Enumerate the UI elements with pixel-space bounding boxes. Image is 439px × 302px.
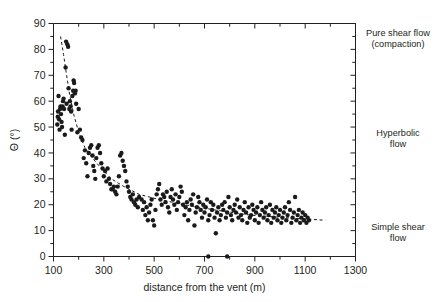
data-point <box>229 213 233 217</box>
data-point <box>72 81 76 85</box>
y-tick-label: 60 <box>34 95 46 107</box>
data-point <box>190 203 194 207</box>
y-tick-label: 20 <box>34 198 46 210</box>
data-point <box>253 218 257 222</box>
x-tick-label: 700 <box>196 264 214 276</box>
data-point <box>91 164 95 168</box>
data-point <box>230 218 234 222</box>
data-point <box>269 221 273 225</box>
data-point <box>183 205 187 209</box>
data-point <box>266 213 270 217</box>
data-point <box>222 200 226 204</box>
data-point <box>172 203 176 207</box>
data-point <box>246 205 250 209</box>
data-point <box>188 197 192 201</box>
data-point <box>282 210 286 214</box>
data-point <box>121 159 125 163</box>
data-point <box>55 122 59 126</box>
data-point <box>307 218 311 222</box>
data-point <box>258 213 262 217</box>
data-point <box>83 148 87 152</box>
data-point <box>219 213 223 217</box>
data-point <box>196 195 200 199</box>
data-point <box>295 213 299 217</box>
data-point <box>238 205 242 209</box>
data-point <box>192 223 196 227</box>
data-point <box>254 210 258 214</box>
data-point <box>221 208 225 212</box>
data-point <box>68 99 72 103</box>
data-point <box>225 254 229 258</box>
data-point <box>250 203 254 207</box>
data-point <box>279 221 283 225</box>
data-point <box>263 210 267 214</box>
data-point <box>215 210 219 214</box>
data-point <box>293 195 297 199</box>
data-point <box>278 208 282 212</box>
data-point <box>166 205 170 209</box>
y-tick-label: 0 <box>40 250 46 262</box>
data-point <box>61 96 65 100</box>
data-point <box>167 210 171 214</box>
data-point <box>298 221 302 225</box>
data-point <box>287 200 291 204</box>
data-point <box>149 197 153 201</box>
data-point <box>157 182 161 186</box>
data-point <box>259 200 263 204</box>
data-point <box>144 205 148 209</box>
data-points <box>55 39 311 258</box>
data-point <box>112 184 116 188</box>
x-tick-label: 100 <box>45 264 63 276</box>
data-point <box>102 174 106 178</box>
data-point <box>200 215 204 219</box>
data-point <box>256 221 260 225</box>
data-point <box>227 205 231 209</box>
data-point <box>173 192 177 196</box>
data-point <box>212 215 216 219</box>
data-point <box>80 138 84 142</box>
y-tick-label: 30 <box>34 172 46 184</box>
data-point <box>289 221 293 225</box>
data-point <box>127 190 131 194</box>
data-point <box>131 192 135 196</box>
data-point <box>105 166 109 170</box>
data-point <box>126 184 130 188</box>
data-point <box>162 195 166 199</box>
data-point <box>114 192 118 196</box>
y-tick-label: 70 <box>34 69 46 81</box>
data-point <box>206 218 210 222</box>
data-point <box>59 120 63 124</box>
x-tick-label: 1300 <box>344 264 368 276</box>
data-point <box>234 210 238 214</box>
data-point <box>84 161 88 165</box>
data-point <box>272 215 276 219</box>
data-point <box>76 107 80 111</box>
data-point <box>255 205 259 209</box>
data-point <box>277 213 281 217</box>
data-point <box>122 164 126 168</box>
data-point <box>211 203 215 207</box>
y-tick-label: 90 <box>34 17 46 29</box>
data-point <box>187 208 191 212</box>
annotation-hyperbolic-flow: Hyperbolic flow <box>358 128 438 149</box>
x-tick-label: 900 <box>246 264 264 276</box>
y-tick-label: 50 <box>34 121 46 133</box>
data-point <box>249 213 253 217</box>
data-point <box>176 200 180 204</box>
data-point <box>285 213 289 217</box>
data-point <box>243 200 247 204</box>
data-point <box>156 187 160 191</box>
data-point <box>207 213 211 217</box>
data-point <box>165 190 169 194</box>
x-tick-label: 500 <box>145 264 163 276</box>
data-point <box>92 169 96 173</box>
data-point <box>294 218 298 222</box>
data-point <box>107 177 111 181</box>
data-point <box>69 127 73 131</box>
x-axis-title: distance from the vent (m) <box>144 281 266 293</box>
data-point <box>170 187 174 191</box>
data-point <box>224 215 228 219</box>
data-point <box>85 174 89 178</box>
y-tick-label: 80 <box>34 43 46 55</box>
data-point <box>205 197 209 201</box>
